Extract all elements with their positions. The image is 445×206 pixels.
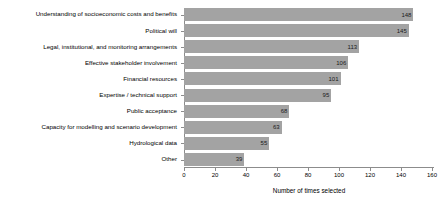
x-axis-tick-label: 140: [396, 172, 406, 178]
x-axis-tick-label: 160: [427, 172, 437, 178]
bar-row: 113: [184, 40, 432, 53]
category-label: Legal, institutional, and monitoring arr…: [0, 40, 180, 53]
category-label: Public acceptance: [0, 105, 180, 118]
x-axis-tick: [215, 168, 216, 171]
bar-row: 145: [184, 24, 432, 37]
x-axis-tick: [308, 168, 309, 171]
category-axis-labels: Understanding of socioeconomic costs and…: [0, 8, 180, 166]
bar-row: 39: [184, 153, 432, 166]
bar-value-label: 39: [236, 156, 245, 162]
x-axis-tick-label: 60: [274, 172, 281, 178]
bar-value-label: 63: [273, 124, 282, 130]
x-axis-tick: [432, 168, 433, 171]
x-axis-line: [184, 167, 434, 168]
bar-value-label: 101: [329, 76, 341, 82]
category-label: Political will: [0, 24, 180, 37]
x-axis-tick: [370, 168, 371, 171]
bar: [184, 8, 413, 21]
bar: [184, 40, 359, 53]
x-axis-tick: [339, 168, 340, 171]
category-label: Hydrological data: [0, 137, 180, 150]
x-axis-tick: [184, 168, 185, 171]
bar-value-label: 68: [281, 108, 290, 114]
plot-area: 148 145 113 106 101 95: [184, 8, 432, 166]
x-axis-title: Number of times selected: [184, 188, 434, 194]
bar: [184, 105, 289, 118]
bar-row: 55: [184, 137, 432, 150]
x-axis-tick: [277, 168, 278, 171]
bar-value-label: 55: [261, 140, 270, 146]
bar-value-label: 148: [401, 12, 413, 18]
x-axis-tick-label: 100: [334, 172, 344, 178]
bar-value-label: 145: [397, 28, 409, 34]
bar: [184, 121, 282, 134]
bar: [184, 56, 348, 69]
bar-row: 101: [184, 72, 432, 85]
bar-row: 63: [184, 121, 432, 134]
x-axis-tick-label: 0: [182, 172, 185, 178]
bar-row: 106: [184, 56, 432, 69]
bar: [184, 24, 409, 37]
category-label: Financial resources: [0, 72, 180, 85]
bar-value-label: 95: [323, 92, 332, 98]
bar-row: 148: [184, 8, 432, 21]
bar-value-label: 113: [348, 44, 360, 50]
category-label: Expertise / technical support: [0, 89, 180, 102]
x-axis-tick-label: 120: [365, 172, 375, 178]
bar-value-label: 106: [336, 60, 348, 66]
x-axis-tick: [246, 168, 247, 171]
bar-row: 95: [184, 89, 432, 102]
bar-chart-figure: Understanding of socioeconomic costs and…: [0, 0, 445, 206]
category-label: Capacity for modelling and scenario deve…: [0, 121, 180, 134]
bar: [184, 72, 341, 85]
bar: [184, 137, 269, 150]
category-label: Understanding of socioeconomic costs and…: [0, 8, 180, 21]
category-label: Effective stakeholder involvement: [0, 56, 180, 69]
x-axis-tick: [401, 168, 402, 171]
x-axis-tick-label: 20: [212, 172, 219, 178]
x-axis-tick-label: 40: [243, 172, 250, 178]
bar-rows: 148 145 113 106 101 95: [184, 8, 432, 166]
x-axis-tick-label: 80: [305, 172, 312, 178]
bar-row: 68: [184, 105, 432, 118]
category-label: Other: [0, 153, 180, 166]
bar: [184, 89, 331, 102]
